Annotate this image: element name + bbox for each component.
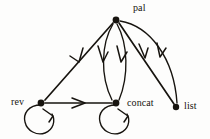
edge-pal-to-list-straight-line (119, 23, 174, 104)
edge-rev-self-loop-arrowhead (43, 109, 53, 122)
edge-concat-self-loop (100, 105, 129, 134)
node-label-list: list (184, 101, 197, 111)
edge-concat-self-loop-line (100, 105, 129, 134)
edge-concat-self-loop-arrowhead (118, 109, 128, 122)
edge-pal-to-concat-left-line (103, 24, 113, 100)
edge-rev-self-loop (25, 105, 54, 134)
edge-pal-to-concat-left-arrowhead (98, 46, 108, 62)
node-dot-pal[interactable] (113, 17, 120, 24)
edge-pal-to-concat-right (117, 24, 127, 100)
edge-rev-to-concat (45, 98, 112, 108)
node-dot-list[interactable] (173, 104, 179, 110)
node-dot-concat[interactable] (113, 100, 120, 107)
edge-pal-to-concat-left (98, 24, 113, 100)
node-label-concat: concat (127, 98, 154, 108)
node-label-rev: rev (11, 97, 24, 107)
graph-svg (0, 0, 210, 139)
edge-pal-to-list-arc-arrowhead (157, 43, 166, 57)
node-label-pal: pal (133, 3, 146, 13)
edge-rev-self-loop-line (25, 105, 54, 134)
edge-pal-to-list-straight (119, 23, 174, 104)
node-dot-rev[interactable] (38, 100, 45, 107)
call-graph-diagram: pal rev concat list (0, 0, 210, 139)
edge-pal-to-list-arc (120, 21, 177, 103)
edge-pal-to-list-arc-line (120, 21, 177, 103)
